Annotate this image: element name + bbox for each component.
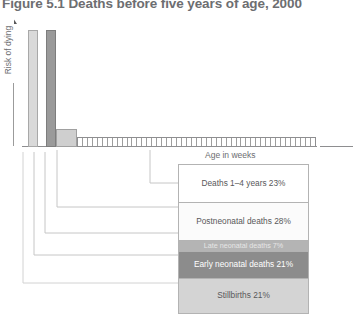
- legend-item-deaths-1-4-years[interactable]: Deaths 1–4 years 23%: [179, 165, 308, 203]
- legend: Deaths 1–4 years 23% Postneonatal deaths…: [178, 164, 309, 314]
- legend-label: Postneonatal deaths 28%: [196, 217, 291, 226]
- plot-area: [22, 18, 322, 148]
- bar-early-neonatal: [46, 30, 56, 147]
- legend-item-early-neonatal-deaths[interactable]: Early neonatal deaths 21%: [179, 252, 308, 279]
- bar-late-neonatal: [56, 129, 77, 147]
- week-segment: [311, 138, 315, 146]
- legend-label: Deaths 1–4 years 23%: [202, 179, 286, 188]
- x-axis-line-tail: [320, 146, 353, 147]
- legend-label: Early neonatal deaths 21%: [194, 260, 293, 269]
- bar-stillbirths: [28, 30, 38, 147]
- x-axis-label: Age in weeks: [205, 150, 256, 160]
- legend-item-stillbirths[interactable]: Stillbirths 21%: [179, 279, 308, 313]
- legend-item-postneonatal-deaths[interactable]: Postneonatal deaths 28%: [179, 203, 308, 241]
- legend-label: Late neonatal deaths 7%: [204, 242, 284, 250]
- bar-week-segments: [77, 137, 316, 147]
- legend-label: Stillbirths 21%: [217, 291, 270, 300]
- legend-item-late-neonatal-deaths[interactable]: Late neonatal deaths 7%: [179, 241, 308, 252]
- figure-title: Figure 5.1 Deaths before five years of a…: [2, 0, 333, 11]
- y-axis-label: Risk of dying: [2, 17, 14, 83]
